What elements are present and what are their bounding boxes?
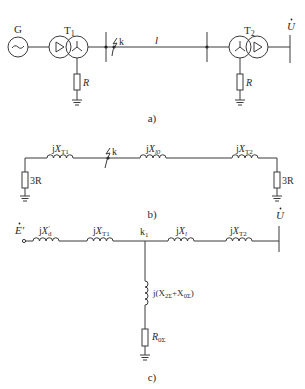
transformer-t2-icon <box>229 36 268 58</box>
svg-text:T2: T2 <box>244 24 255 38</box>
ground-icon <box>72 100 82 105</box>
generator-icon <box>8 37 28 57</box>
svg-text:jXd′: jXd′ <box>38 224 52 238</box>
svg-text:jXl0: jXl0 <box>145 143 161 156</box>
svg-text:jXT2: jXT2 <box>229 225 247 238</box>
resistor-icon <box>74 74 80 90</box>
caption-a: a) <box>148 112 157 125</box>
fault-label: k <box>119 36 124 47</box>
svg-text:jXl: jXl <box>175 225 187 238</box>
svg-text:jXT2: jXT2 <box>235 143 253 156</box>
panel-b: jXT1 jXl0 jXT2 k 3R 3R b) <box>20 143 294 221</box>
emf-label: E′ <box>14 224 25 236</box>
fault-label: k <box>112 146 117 157</box>
r0-label: R0Σ <box>151 331 166 344</box>
inductor-shunt-icon <box>145 281 148 305</box>
caption-b: b) <box>147 208 157 221</box>
shunt-impedance-label: j(X2Σ+X0Σ) <box>152 288 194 299</box>
line-label: l <box>155 34 158 46</box>
ground-icon <box>20 196 30 201</box>
inductor-xd-icon <box>33 238 59 241</box>
ground-icon <box>235 100 245 105</box>
resistor-icon <box>22 172 28 188</box>
transformer-t1-icon <box>49 36 88 58</box>
r-right-label: 3R <box>282 175 294 186</box>
voltage-label: U <box>287 20 296 32</box>
svg-text:jXT1: jXT1 <box>51 143 69 156</box>
panel-c: U E′ jXd′ jXT1 k1 jXl jXT2 j(X2Σ+X0Σ) R0… <box>14 208 285 384</box>
r2-label: R <box>245 77 252 88</box>
inductor-xt1-icon <box>87 238 113 241</box>
r1-label: R <box>82 77 89 88</box>
panel-a: G T1 R k l <box>8 19 296 125</box>
terminal-icon <box>22 239 25 242</box>
generator-label: G <box>14 23 22 35</box>
inductor-xt2-icon <box>226 238 252 241</box>
inductor-xl-icon <box>168 238 194 241</box>
ground-icon <box>272 196 282 201</box>
circuit-diagram: G T1 R k l <box>0 0 305 389</box>
svg-text:k1: k1 <box>140 226 149 239</box>
caption-c: c) <box>148 371 157 384</box>
resistor-icon <box>142 329 148 346</box>
resistor-icon <box>274 172 280 188</box>
svg-text:jXT1: jXT1 <box>92 225 110 238</box>
ground-icon <box>140 355 150 360</box>
voltage-label: U <box>276 209 285 221</box>
r-left-label: 3R <box>30 175 42 186</box>
svg-text:T1: T1 <box>64 24 75 38</box>
inductor-xl0-icon <box>140 155 166 158</box>
resistor-icon <box>237 74 243 90</box>
